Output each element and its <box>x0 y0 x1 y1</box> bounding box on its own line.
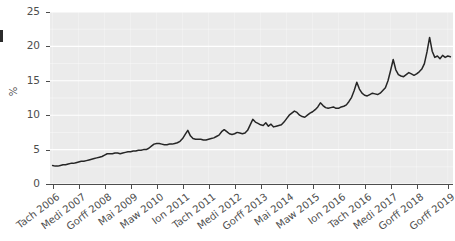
x-tick-mark <box>417 185 418 189</box>
x-tick-mark <box>261 185 262 189</box>
plot-panel <box>50 12 453 184</box>
x-tick-mark <box>287 185 288 189</box>
y-tick-label: 25 <box>14 6 40 17</box>
x-tick-mark <box>79 185 80 189</box>
y-tick-label: 20 <box>14 40 40 51</box>
x-tick-mark <box>157 185 158 189</box>
y-tick-label: 0 <box>14 178 40 189</box>
x-tick-mark <box>209 185 210 189</box>
x-tick-mark <box>105 185 106 189</box>
x-tick-mark <box>183 185 184 189</box>
x-tick-mark <box>235 185 236 189</box>
x-tick-mark <box>391 185 392 189</box>
x-tick-mark <box>339 185 340 189</box>
x-tick-mark <box>365 185 366 189</box>
chart-container: % 0510152025 Tach 2006Medi 2007Gorff 200… <box>0 0 455 241</box>
y-tick-label: 10 <box>14 109 40 120</box>
x-axis-line <box>50 184 453 185</box>
x-tick-mark <box>131 185 132 189</box>
y-tick-label: 15 <box>14 75 40 86</box>
y-tick-label: 5 <box>14 144 40 155</box>
left-edge-artifact <box>0 30 3 42</box>
x-tick-mark <box>448 185 449 189</box>
x-tick-mark <box>53 185 54 189</box>
plot-svg <box>50 12 453 184</box>
x-tick-mark <box>313 185 314 189</box>
